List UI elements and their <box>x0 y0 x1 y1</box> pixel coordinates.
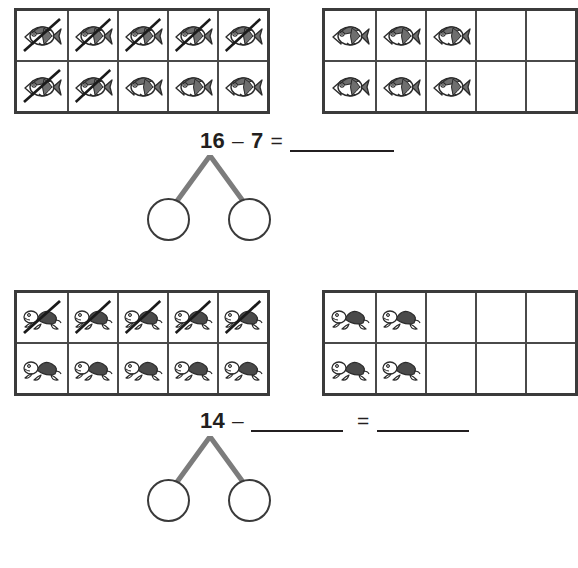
ten-frame-cell <box>217 344 267 393</box>
ten-frame-row <box>17 293 267 342</box>
fish-icon <box>122 70 164 104</box>
ten-frame-cell <box>325 11 375 60</box>
fish-icon <box>430 70 472 104</box>
ten-frame-cell <box>217 293 267 342</box>
ten-frame-cell-empty <box>475 344 525 393</box>
fish-icon <box>222 70 264 104</box>
fish-icon <box>329 19 371 53</box>
answer-blank[interactable] <box>377 413 469 432</box>
subtrahend-blank[interactable] <box>251 413 343 432</box>
turtle-icon <box>72 301 114 335</box>
fish-icon <box>72 70 114 104</box>
ten-frame-cell <box>375 293 425 342</box>
fish-icon <box>380 70 422 104</box>
ten-frame-row <box>325 342 575 393</box>
ten-frame-row <box>17 60 267 111</box>
ten-frame-cell-empty <box>425 344 475 393</box>
ten-frame-cell <box>67 293 117 342</box>
ten-frame-row <box>325 11 575 60</box>
minus-sign: – <box>232 130 244 152</box>
ten-frame-cell <box>375 62 425 111</box>
turtle-icon <box>122 301 164 335</box>
fish-icon <box>172 19 214 53</box>
turtle-icon <box>222 301 264 335</box>
ten-frame-cell <box>67 62 117 111</box>
ten-frame-cell <box>167 11 217 60</box>
fish-icon <box>172 70 214 104</box>
ten-frame-p2-left <box>14 290 270 396</box>
ten-frame-cell <box>167 62 217 111</box>
ten-frame-cell-empty <box>425 293 475 342</box>
fish-icon <box>21 70 63 104</box>
ten-frame-cell <box>67 11 117 60</box>
answer-blank[interactable] <box>290 133 394 152</box>
turtle-icon <box>122 352 164 386</box>
ten-frame-cell <box>17 293 67 342</box>
ten-frame-cell-empty <box>525 344 575 393</box>
ten-frame-row <box>17 11 267 60</box>
turtle-icon <box>172 301 214 335</box>
ten-frame-cell <box>325 62 375 111</box>
number-bond-right-circle[interactable] <box>228 198 271 241</box>
fish-icon <box>21 19 63 53</box>
number-bond-1 <box>129 155 289 255</box>
turtle-icon <box>380 352 422 386</box>
turtle-icon <box>222 352 264 386</box>
turtle-icon <box>380 301 422 335</box>
equals-sign: = <box>357 410 370 432</box>
ten-frame-row <box>17 342 267 393</box>
fish-icon <box>72 19 114 53</box>
fish-icon <box>122 19 164 53</box>
ten-frame-cell <box>167 344 217 393</box>
ten-frame-cell <box>425 11 475 60</box>
ten-frame-cell <box>117 293 167 342</box>
number-bond-2 <box>129 436 289 536</box>
turtle-icon <box>21 301 63 335</box>
ten-frame-row <box>325 293 575 342</box>
ten-frame-cell <box>167 293 217 342</box>
ten-frame-cell-empty <box>475 293 525 342</box>
ten-frame-cell-empty <box>525 11 575 60</box>
equation-subtrahend: 7 <box>251 130 264 152</box>
fish-icon <box>222 19 264 53</box>
ten-frame-cell-empty <box>475 11 525 60</box>
turtle-icon <box>172 352 214 386</box>
ten-frame-cell <box>117 11 167 60</box>
ten-frame-p1-right <box>322 8 578 114</box>
minus-sign: – <box>232 410 244 432</box>
ten-frame-cell <box>425 62 475 111</box>
turtle-icon <box>21 352 63 386</box>
ten-frame-cell-empty <box>525 62 575 111</box>
ten-frame-p2-right <box>322 290 578 396</box>
ten-frame-cell <box>17 62 67 111</box>
ten-frame-cell <box>325 344 375 393</box>
ten-frame-cell <box>17 344 67 393</box>
ten-frame-cell <box>217 62 267 111</box>
equation-problem-2: 14 – = <box>200 410 469 432</box>
equation-minuend: 16 <box>200 130 225 152</box>
number-bond-right-circle[interactable] <box>228 479 271 522</box>
ten-frame-cell <box>67 344 117 393</box>
fish-icon <box>430 19 472 53</box>
ten-frame-cell <box>325 293 375 342</box>
ten-frame-p1-left <box>14 8 270 114</box>
ten-frame-cell-empty <box>525 293 575 342</box>
ten-frame-cell <box>375 344 425 393</box>
number-bond-left-circle[interactable] <box>147 198 190 241</box>
ten-frame-cell <box>17 11 67 60</box>
number-bond-left-circle[interactable] <box>147 479 190 522</box>
ten-frame-cell <box>217 11 267 60</box>
ten-frame-row <box>325 60 575 111</box>
fish-icon <box>329 70 371 104</box>
equation-minuend: 14 <box>200 410 225 432</box>
fish-icon <box>380 19 422 53</box>
ten-frame-cell <box>375 11 425 60</box>
ten-frame-cell-empty <box>475 62 525 111</box>
ten-frame-cell <box>117 344 167 393</box>
turtle-icon <box>72 352 114 386</box>
ten-frame-cell <box>117 62 167 111</box>
equals-sign: = <box>271 130 284 152</box>
turtle-icon <box>329 301 371 335</box>
equation-problem-1: 16 – 7 = <box>200 130 394 152</box>
turtle-icon <box>329 352 371 386</box>
